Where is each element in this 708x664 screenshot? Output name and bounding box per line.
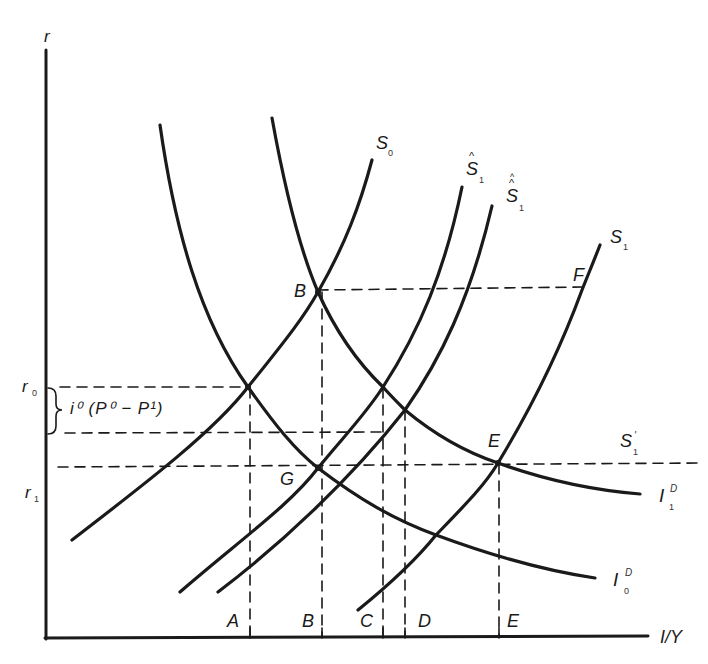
curve-S1-double-hat — [218, 206, 492, 592]
brace-r0-to-lower — [48, 388, 62, 434]
label-S0-sub: 0 — [388, 148, 393, 158]
label-I0D: I — [613, 570, 618, 589]
point-E-dot — [495, 460, 501, 466]
label-S1: S — [610, 228, 622, 246]
curve-S0 — [72, 160, 372, 540]
label-I1D-sub: 1 — [669, 502, 674, 512]
point-B-dot — [315, 289, 321, 295]
curve-S1 — [358, 245, 600, 610]
label-S0: S — [376, 134, 388, 152]
label-I0D-sup: D — [625, 567, 632, 578]
curve-I0D — [160, 125, 595, 578]
x-marker-C: C — [360, 612, 373, 630]
r1-label: r — [25, 484, 31, 501]
label-S1-hat: S — [466, 160, 478, 178]
r0-subscript: 0 — [32, 388, 37, 398]
label-I1D-sup: D — [670, 483, 677, 494]
r0-label: r — [22, 378, 28, 395]
label-S1-prime: S — [620, 432, 632, 450]
x-axis — [45, 636, 648, 638]
label-S1-double-hat: S — [506, 187, 518, 205]
label-S1-prime-sub: 1 — [633, 447, 638, 457]
point-F-label: F — [573, 266, 584, 284]
x-marker-E: E — [507, 612, 519, 630]
B-F-dashed-line — [318, 287, 585, 290]
point-r0-dot — [245, 384, 251, 390]
bracket-annotation: i⁰ (P⁰ − P¹) — [70, 400, 164, 417]
point-E-label: E — [488, 432, 500, 450]
point-G-dot — [315, 465, 321, 471]
label-S1-prime-sup: ' — [634, 430, 636, 441]
investment-saving-diagram — [0, 0, 708, 664]
lower-bracket-dashed-line — [65, 432, 383, 433]
label-S1-double-hat-sub: 1 — [519, 203, 524, 213]
point-G-label: G — [280, 470, 294, 488]
y-axis-label: r — [44, 28, 50, 45]
label-S1-sub: 1 — [623, 242, 628, 252]
label-S1-hat-sub: 1 — [479, 175, 484, 185]
label-I1D: I — [659, 486, 664, 505]
point-B-label: B — [294, 282, 306, 300]
x-marker-A: A — [227, 612, 239, 630]
r1-subscript: 1 — [34, 494, 39, 504]
x-axis-label: I/Y — [660, 628, 682, 646]
r1-dashed-line — [58, 463, 700, 467]
label-I0D-sub: 0 — [624, 586, 629, 596]
x-marker-D: D — [418, 612, 431, 630]
x-marker-B: B — [302, 612, 314, 630]
curve-I1D — [272, 118, 640, 494]
